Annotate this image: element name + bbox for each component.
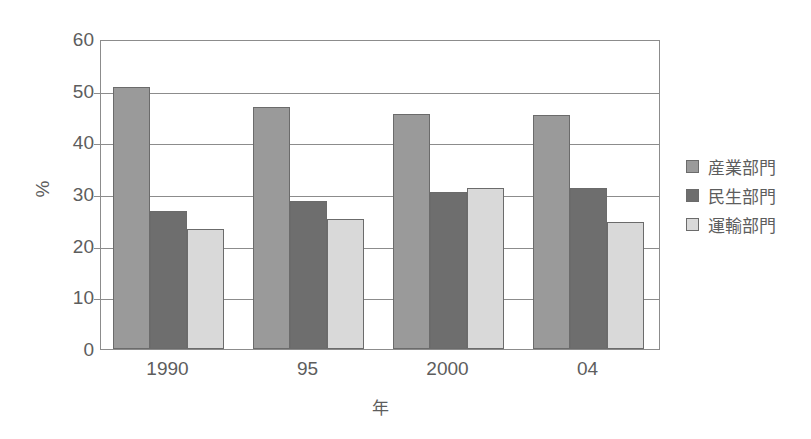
legend-item: 運輸部門	[686, 210, 806, 239]
legend-swatch-icon	[686, 189, 699, 202]
y-axis-tick-mark	[94, 144, 101, 145]
legend-item: 産業部門	[686, 152, 806, 181]
bar	[327, 219, 364, 349]
bar	[187, 229, 224, 349]
bars-layer	[101, 41, 659, 349]
legend-swatch-icon	[686, 218, 699, 231]
bar	[290, 201, 327, 349]
y-axis-tick-label: 10	[50, 288, 94, 307]
y-axis-tick-mark	[94, 196, 101, 197]
bar	[607, 222, 644, 349]
y-axis-tick-label: 50	[50, 82, 94, 101]
y-axis-tick-mark	[94, 248, 101, 249]
bar	[150, 211, 187, 349]
y-axis-title: %	[32, 174, 54, 204]
x-axis-tick-label: 04	[577, 358, 598, 380]
bar-chart-figure: 0102030405060 % 199095200004 年 産業部門民生部門運…	[0, 0, 811, 439]
legend-swatch-icon	[686, 160, 699, 173]
legend-item-label: 運輸部門	[708, 212, 776, 237]
chart-legend: 産業部門民生部門運輸部門	[686, 152, 806, 239]
legend-item: 民生部門	[686, 181, 806, 210]
bar	[533, 115, 570, 349]
y-axis-tick-label: 30	[50, 185, 94, 204]
bar	[113, 87, 150, 349]
x-axis-title: 年	[372, 394, 389, 419]
x-axis-tick-label: 95	[297, 358, 318, 380]
y-axis-tick-label: 40	[50, 133, 94, 152]
bar	[393, 114, 430, 349]
bar	[467, 188, 504, 349]
y-axis-tick-label: 60	[50, 30, 94, 49]
y-axis-tick-labels: 0102030405060	[44, 0, 94, 439]
y-axis-tick-label: 20	[50, 237, 94, 256]
bar	[430, 192, 467, 349]
legend-item-label: 民生部門	[708, 183, 776, 208]
y-axis-tick-mark	[94, 299, 101, 300]
legend-item-label: 産業部門	[708, 154, 776, 179]
bar	[570, 188, 607, 349]
plot-area	[100, 40, 660, 350]
x-axis-tick-label: 1990	[146, 358, 188, 380]
x-axis-tick-label: 2000	[426, 358, 468, 380]
y-axis-tick-label: 0	[50, 340, 94, 359]
bar	[253, 107, 290, 349]
y-axis-tick-mark	[94, 93, 101, 94]
